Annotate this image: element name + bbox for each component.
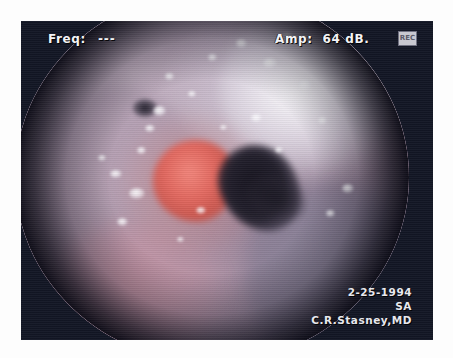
amplitude-label: Amp:	[275, 32, 313, 46]
study-date: 2-25-1994	[311, 285, 412, 299]
frequency-value: ---	[98, 32, 116, 46]
study-initials: SA	[311, 299, 412, 313]
video-frame: Freq:--- Amp:64 dB. REC 2-25-1994 SA C.R…	[21, 21, 433, 340]
amplitude-value: 64 dB.	[323, 32, 370, 46]
study-stamp: 2-25-1994 SA C.R.Stasney,MD	[311, 285, 412, 327]
frequency-label: Freq:	[48, 32, 86, 46]
frequency-readout: Freq:---	[48, 32, 116, 46]
record-mode-badge: REC	[398, 31, 417, 46]
physician-name: C.R.Stasney,MD	[311, 313, 412, 327]
amplitude-readout: Amp:64 dB.	[275, 32, 369, 46]
page-root: Freq:--- Amp:64 dB. REC 2-25-1994 SA C.R…	[0, 0, 453, 358]
